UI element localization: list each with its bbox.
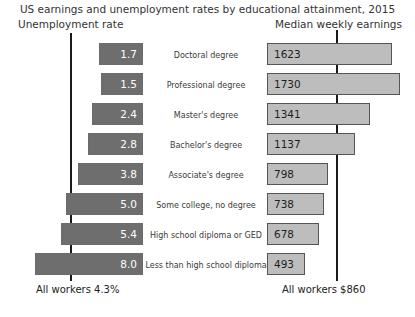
earnings-bar[interactable]: 738 — [267, 193, 324, 215]
chart-row: 1.7Doctoral degree1623 — [0, 40, 415, 70]
unemployment-cell: 5.4 — [0, 220, 143, 250]
earnings-cell: 1623 — [267, 40, 415, 70]
category-cell: Bachelor's degree — [146, 130, 266, 160]
unemployment-bar[interactable]: 2.4 — [92, 103, 143, 125]
category-label: Associate's degree — [168, 171, 243, 180]
earnings-cell: 1137 — [267, 130, 415, 160]
left-axis-header: Unemployment rate — [18, 18, 123, 30]
unemployment-cell: 1.5 — [0, 70, 143, 100]
category-label: Less than high school diploma — [145, 261, 266, 270]
category-cell: Less than high school diploma — [146, 250, 266, 280]
unemployment-value-label: 2.8 — [120, 138, 137, 150]
unemployment-value-label: 1.5 — [120, 78, 137, 90]
unemployment-bar[interactable]: 1.7 — [99, 43, 143, 65]
earnings-cell: 1730 — [267, 70, 415, 100]
chart-row: 2.4Master's degree1341 — [0, 100, 415, 130]
chart-row: 2.8Bachelor's degree1137 — [0, 130, 415, 160]
unemployment-cell: 2.4 — [0, 100, 143, 130]
chart-row: 5.0Some college, no degree738 — [0, 190, 415, 220]
category-cell: Some college, no degree — [146, 190, 266, 220]
unemployment-cell: 2.8 — [0, 130, 143, 160]
earnings-bar[interactable]: 678 — [267, 223, 319, 245]
chart-row: 8.0Less than high school diploma493 — [0, 250, 415, 280]
earnings-cell: 493 — [267, 250, 415, 280]
unemployment-cell: 8.0 — [0, 250, 143, 280]
unemployment-bar[interactable]: 1.5 — [101, 73, 143, 95]
unemployment-value-label: 1.7 — [120, 48, 137, 60]
earnings-cell: 1341 — [267, 100, 415, 130]
earnings-bar[interactable]: 1137 — [267, 133, 355, 155]
chart-container: US earnings and unemployment rates by ed… — [0, 0, 415, 317]
category-cell: High school diploma or GED — [146, 220, 266, 250]
earnings-bar[interactable]: 1623 — [267, 43, 392, 65]
unemployment-value-label: 5.4 — [120, 228, 137, 240]
unemployment-bar[interactable]: 5.4 — [61, 223, 143, 245]
earnings-value-label: 1623 — [274, 48, 301, 60]
category-label: Professional degree — [167, 81, 246, 90]
earnings-value-label: 1137 — [274, 138, 301, 150]
earnings-cell: 678 — [267, 220, 415, 250]
unemployment-cell: 3.8 — [0, 160, 143, 190]
chart-title: US earnings and unemployment rates by ed… — [0, 3, 415, 15]
unemployment-cell: 1.7 — [0, 40, 143, 70]
unemployment-value-label: 2.4 — [120, 108, 137, 120]
earnings-bar[interactable]: 493 — [267, 253, 305, 275]
earnings-bar[interactable]: 798 — [267, 163, 328, 185]
chart-rows: 1.7Doctoral degree16231.5Professional de… — [0, 40, 415, 280]
unemployment-cell: 5.0 — [0, 190, 143, 220]
earnings-value-label: 493 — [274, 258, 294, 270]
earnings-value-label: 1341 — [274, 108, 301, 120]
unemployment-value-label: 5.0 — [120, 198, 137, 210]
category-label: Bachelor's degree — [170, 141, 242, 150]
earnings-bar[interactable]: 1341 — [267, 103, 370, 125]
category-label: High school diploma or GED — [150, 231, 262, 240]
earnings-reference-label: All workers $860 — [282, 284, 366, 295]
earnings-value-label: 798 — [274, 168, 294, 180]
unemployment-bar[interactable]: 2.8 — [88, 133, 143, 155]
unemployment-value-label: 3.8 — [120, 168, 137, 180]
unemployment-bar[interactable]: 5.0 — [66, 193, 144, 215]
earnings-cell: 738 — [267, 190, 415, 220]
category-cell: Professional degree — [146, 70, 266, 100]
earnings-value-label: 1730 — [274, 78, 301, 90]
category-cell: Master's degree — [146, 100, 266, 130]
chart-row: 5.4High school diploma or GED678 — [0, 220, 415, 250]
unemployment-reference-label: All workers 4.3% — [36, 284, 119, 295]
earnings-value-label: 738 — [274, 198, 294, 210]
earnings-cell: 798 — [267, 160, 415, 190]
category-label: Some college, no degree — [156, 201, 256, 210]
category-label: Master's degree — [174, 111, 238, 120]
unemployment-value-label: 8.0 — [120, 258, 137, 270]
unemployment-bar[interactable]: 3.8 — [78, 163, 143, 185]
chart-row: 1.5Professional degree1730 — [0, 70, 415, 100]
category-label: Doctoral degree — [174, 51, 238, 60]
earnings-value-label: 678 — [274, 228, 294, 240]
earnings-bar[interactable]: 1730 — [267, 73, 400, 95]
chart-row: 3.8Associate's degree798 — [0, 160, 415, 190]
category-cell: Doctoral degree — [146, 40, 266, 70]
right-axis-header: Median weekly earnings — [275, 18, 402, 30]
unemployment-bar[interactable]: 8.0 — [35, 253, 143, 275]
category-cell: Associate's degree — [146, 160, 266, 190]
